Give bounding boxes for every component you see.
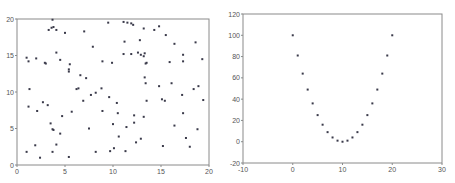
y-tick-label: 100 xyxy=(228,32,240,39)
data-point xyxy=(118,136,120,138)
data-point xyxy=(158,85,160,87)
data-point xyxy=(327,131,329,133)
data-point xyxy=(101,60,103,62)
data-point xyxy=(77,87,79,89)
data-point xyxy=(391,34,393,36)
data-point xyxy=(195,41,197,43)
data-point xyxy=(144,52,146,54)
data-point xyxy=(145,63,147,65)
data-point xyxy=(182,112,184,114)
data-point xyxy=(322,124,324,126)
data-point xyxy=(153,29,155,31)
data-point xyxy=(297,55,299,57)
data-point xyxy=(108,96,110,98)
y-tick-label: 80 xyxy=(232,53,240,60)
data-point xyxy=(55,52,57,54)
data-point xyxy=(182,60,184,62)
data-point xyxy=(52,129,54,131)
data-point xyxy=(45,63,47,65)
scatter-chart-random: 0510152005101520 xyxy=(0,0,228,183)
data-point xyxy=(100,87,102,89)
x-tick-label: 20 xyxy=(205,168,213,175)
data-point xyxy=(68,68,70,70)
data-point xyxy=(95,151,97,153)
x-tick-label: 0 xyxy=(15,168,19,175)
y-tick-label: 0 xyxy=(236,138,240,145)
data-point xyxy=(47,104,49,106)
data-point xyxy=(143,55,145,57)
data-point xyxy=(101,110,103,112)
data-point xyxy=(356,131,358,133)
x-tick-label: 30 xyxy=(438,166,446,173)
x-tick-label: 0 xyxy=(291,166,295,173)
data-point xyxy=(52,26,54,28)
x-tick-label: 10 xyxy=(109,168,117,175)
data-point xyxy=(28,60,30,62)
data-point xyxy=(68,71,70,73)
data-point xyxy=(312,102,314,104)
data-point xyxy=(133,114,135,116)
data-point xyxy=(202,99,204,101)
data-point xyxy=(181,94,183,96)
x-tick-label: -10 xyxy=(238,166,248,173)
data-point xyxy=(133,122,135,124)
data-point xyxy=(182,54,184,56)
plot-frame xyxy=(243,14,442,163)
y-tick-label: 20 xyxy=(6,16,14,23)
data-point xyxy=(193,88,195,90)
data-point xyxy=(88,128,90,130)
data-point xyxy=(171,82,173,84)
data-point xyxy=(332,136,334,138)
data-point xyxy=(376,89,378,91)
data-point xyxy=(173,125,175,127)
data-point xyxy=(130,53,132,55)
data-point xyxy=(169,61,171,63)
data-point xyxy=(51,27,53,29)
data-point xyxy=(161,98,163,100)
data-point xyxy=(307,89,309,91)
data-point xyxy=(68,156,70,158)
scatter-chart-parabola: -100102030-20020406080100120 xyxy=(228,0,455,183)
data-point xyxy=(112,123,114,125)
data-point xyxy=(346,140,348,142)
data-point xyxy=(59,59,61,61)
data-point xyxy=(386,55,388,57)
data-point xyxy=(28,88,30,90)
data-point xyxy=(83,30,85,32)
data-point xyxy=(123,53,125,55)
data-point xyxy=(113,147,115,149)
data-point xyxy=(145,82,147,84)
x-tick-label: 15 xyxy=(157,168,165,175)
data-point xyxy=(137,52,139,54)
data-point xyxy=(95,92,97,94)
data-point xyxy=(124,41,126,43)
data-point xyxy=(292,34,294,36)
data-point xyxy=(381,73,383,75)
data-point xyxy=(371,102,373,104)
data-point xyxy=(173,43,175,45)
data-point xyxy=(82,100,84,102)
data-point xyxy=(123,21,125,23)
y-tick-label: 60 xyxy=(232,74,240,81)
y-tick-label: -20 xyxy=(230,160,240,167)
x-tick-label: 10 xyxy=(339,166,347,173)
data-point xyxy=(48,29,50,31)
data-point xyxy=(92,46,94,48)
data-point xyxy=(144,76,146,78)
data-point xyxy=(366,114,368,116)
data-point xyxy=(124,150,126,152)
data-point xyxy=(71,111,73,113)
data-point xyxy=(107,22,109,24)
data-point xyxy=(61,115,63,117)
data-point xyxy=(165,34,167,36)
data-point xyxy=(162,145,164,147)
data-point xyxy=(79,74,81,76)
data-point xyxy=(50,122,52,124)
data-point xyxy=(139,39,141,41)
data-point xyxy=(132,24,134,26)
data-point xyxy=(36,110,38,112)
data-point xyxy=(117,112,119,114)
data-point xyxy=(126,22,128,24)
data-point xyxy=(52,151,54,153)
data-point xyxy=(337,140,339,142)
